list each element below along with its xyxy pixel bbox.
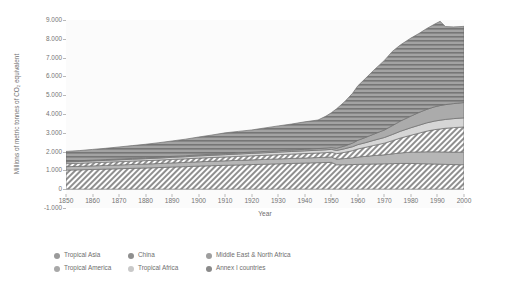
y-tick-mark bbox=[63, 95, 66, 96]
chart-plot-area: 9.0008.0007.0006.0005.0004.0003.0002.000… bbox=[66, 20, 464, 208]
legend-item[interactable]: Tropical America bbox=[54, 265, 128, 271]
x-tick-label: 1870 bbox=[112, 198, 127, 205]
legend-label: Tropical Africa bbox=[138, 265, 178, 271]
x-tick-mark bbox=[225, 194, 226, 197]
legend-swatch-icon bbox=[128, 253, 134, 259]
y-tick-mark bbox=[63, 208, 66, 209]
x-tick-mark bbox=[384, 194, 385, 197]
y-tick-label: 7.000 bbox=[46, 54, 62, 60]
x-tick-label: 1950 bbox=[324, 198, 339, 205]
x-tick-mark bbox=[304, 194, 305, 197]
x-tick-label: 1980 bbox=[404, 198, 419, 205]
legend-item[interactable]: Tropical Asia bbox=[54, 252, 128, 258]
x-tick-mark bbox=[119, 194, 120, 197]
x-tick-mark bbox=[357, 194, 358, 197]
legend-label: Middle East & North Africa bbox=[216, 252, 291, 258]
y-tick-label: 9.000 bbox=[46, 17, 62, 23]
y-tick-mark bbox=[63, 76, 66, 77]
y-tick-mark bbox=[63, 170, 66, 171]
legend-item[interactable]: Annex I countries bbox=[206, 265, 366, 271]
legend-item[interactable]: Middle East & North Africa bbox=[206, 252, 366, 258]
x-tick-label: 1970 bbox=[377, 198, 392, 205]
y-tick-label: 6.000 bbox=[46, 73, 62, 79]
x-tick-label: 2000 bbox=[457, 198, 472, 205]
y-tick-label: 3.000 bbox=[46, 130, 62, 136]
x-tick-label: 1990 bbox=[430, 198, 445, 205]
y-tick-mark bbox=[63, 133, 66, 134]
chart-screenshot: 9.0008.0007.0006.0005.0004.0003.0002.000… bbox=[0, 0, 512, 292]
y-tick-mark bbox=[63, 152, 66, 153]
x-tick-mark bbox=[278, 194, 279, 197]
x-tick-label: 1880 bbox=[138, 198, 153, 205]
y-tick-label: 4.000 bbox=[46, 111, 62, 117]
y-tick-mark bbox=[63, 58, 66, 59]
x-tick-label: 1860 bbox=[85, 198, 100, 205]
legend-swatch-icon bbox=[128, 266, 134, 272]
stacked-area-plot bbox=[66, 20, 464, 208]
y-tick-label: 0 bbox=[58, 186, 62, 192]
x-tick-mark bbox=[251, 194, 252, 197]
y-tick-label: 2.000 bbox=[46, 148, 62, 154]
y-tick-mark bbox=[63, 39, 66, 40]
x-tick-label: 1910 bbox=[218, 198, 233, 205]
y-tick-mark bbox=[63, 20, 66, 21]
x-tick-mark bbox=[198, 194, 199, 197]
legend-label: Tropical Asia bbox=[64, 252, 100, 258]
legend-label: Tropical America bbox=[64, 265, 111, 271]
x-tick-mark bbox=[410, 194, 411, 197]
legend-swatch-icon bbox=[54, 266, 60, 272]
y-tick-label: 1.000 bbox=[46, 167, 62, 173]
y-tick-label: 8.000 bbox=[46, 36, 62, 42]
y-tick-mark bbox=[63, 189, 66, 190]
y-axis-title: Millions of metric tonnes of CO₂ equival… bbox=[14, 20, 20, 208]
x-tick-label: 1890 bbox=[165, 198, 180, 205]
x-tick-mark bbox=[172, 194, 173, 197]
x-tick-label: 1930 bbox=[271, 198, 286, 205]
x-tick-label: 1920 bbox=[244, 198, 259, 205]
x-tick-mark bbox=[66, 194, 67, 197]
x-tick-label: 1850 bbox=[59, 198, 74, 205]
legend-swatch-icon bbox=[54, 253, 60, 259]
y-tick-mark bbox=[63, 114, 66, 115]
x-tick-mark bbox=[331, 194, 332, 197]
x-tick-label: 1940 bbox=[297, 198, 312, 205]
chart-legend: Tropical AsiaChinaMiddle East & North Af… bbox=[54, 249, 384, 275]
x-tick-label: 1900 bbox=[191, 198, 206, 205]
x-tick-label: 1960 bbox=[351, 198, 366, 205]
legend-item[interactable]: Tropical Africa bbox=[128, 265, 206, 271]
legend-label: China bbox=[138, 252, 155, 258]
legend-swatch-icon bbox=[206, 253, 212, 259]
legend-item[interactable]: China bbox=[128, 252, 206, 258]
x-axis-title: Year bbox=[66, 210, 464, 217]
x-tick-mark bbox=[437, 194, 438, 197]
y-tick-label: -1.000 bbox=[44, 205, 62, 211]
legend-label: Annex I countries bbox=[216, 265, 265, 271]
y-tick-label: 5.000 bbox=[46, 92, 62, 98]
x-tick-mark bbox=[92, 194, 93, 197]
x-tick-mark bbox=[145, 194, 146, 197]
legend-swatch-icon bbox=[206, 266, 212, 272]
x-tick-mark bbox=[464, 194, 465, 197]
